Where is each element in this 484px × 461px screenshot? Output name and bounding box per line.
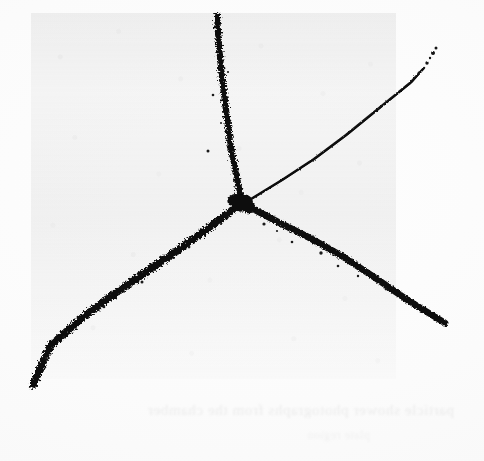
particle-tracks-figure [0, 0, 484, 461]
ghost-bleedthrough-text-secondary: plate region [150, 428, 370, 443]
track-upper-right-thin [251, 47, 438, 200]
track-lower-left [33, 203, 242, 385]
scanned-page: particle shower photographs from the cha… [0, 0, 484, 461]
track-lower-right [246, 205, 445, 323]
ghost-bleedthrough-text: particle shower photographs from the cha… [44, 402, 454, 419]
track-upper-vertical [217, 16, 242, 203]
emulsion-speckles [45, 71, 388, 359]
